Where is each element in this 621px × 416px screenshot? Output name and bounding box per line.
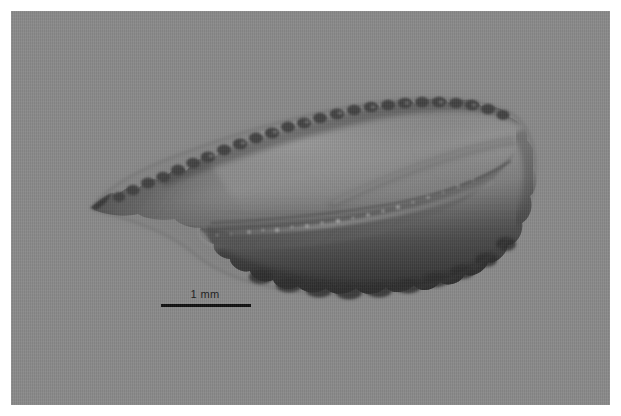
micrograph-plate: 1 mm xyxy=(11,11,610,405)
otolith-specimen xyxy=(11,11,610,405)
scale-bar: 1 mm xyxy=(150,288,270,307)
scale-bar-line xyxy=(161,304,251,307)
figure-root: 1 mm xyxy=(0,0,621,416)
scale-bar-label: 1 mm xyxy=(159,288,251,301)
specimen-layer xyxy=(11,11,610,405)
otolith-interior-shading xyxy=(89,104,551,306)
